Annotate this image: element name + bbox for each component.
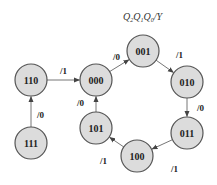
state-node-100: 100 <box>121 140 153 172</box>
transition-label: /1 <box>170 164 179 174</box>
transition-arrow-011-100 <box>152 140 172 149</box>
state-node-110: 110 <box>15 64 47 96</box>
transition-arrow-001-010 <box>156 60 173 72</box>
state-label: 101 <box>89 123 104 134</box>
diagram-title: Q2Q1Q0/Y <box>123 11 163 23</box>
state-diagram: Q2Q1Q0/Y /1/0/1/0/1/1/0/0 11000000101001… <box>0 0 217 185</box>
state-node-011: 011 <box>171 117 203 149</box>
state-node-111: 111 <box>15 127 47 159</box>
transition-label: /1 <box>99 156 108 166</box>
state-label: 111 <box>24 138 38 149</box>
state-label: 000 <box>89 75 104 86</box>
diagram-svg: Q2Q1Q0/Y /1/0/1/0/1/1/0/0 11000000101001… <box>0 0 217 185</box>
state-label: 001 <box>136 46 151 57</box>
transition-label: /0 <box>76 98 85 108</box>
transition-label: /0 <box>196 103 205 113</box>
state-node-010: 010 <box>171 66 203 98</box>
transition-label: /1 <box>59 66 68 76</box>
state-label: 010 <box>180 77 195 88</box>
transition-label: /0 <box>36 110 45 120</box>
state-node-000: 000 <box>80 64 112 96</box>
state-label: 110 <box>24 75 38 86</box>
state-node-001: 001 <box>127 35 159 67</box>
transition-arrow-100-101 <box>110 137 124 147</box>
nodes-group: 110000001010011100101111 <box>15 35 203 172</box>
state-label: 011 <box>180 128 194 139</box>
transition-label: /0 <box>112 52 121 62</box>
state-node-101: 101 <box>80 112 112 144</box>
state-label: 100 <box>130 151 145 162</box>
transition-label: /1 <box>175 50 184 60</box>
